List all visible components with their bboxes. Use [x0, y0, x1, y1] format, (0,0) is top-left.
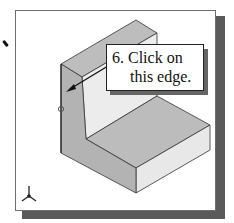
instruction-callout: 6. Click on this edge.: [106, 44, 204, 91]
coordinate-triad-icon: [22, 186, 36, 201]
model-3d-view[interactable]: [0, 0, 234, 223]
callout-line-2: this edge.: [112, 67, 203, 86]
callout-line-1: 6. Click on: [112, 49, 183, 66]
